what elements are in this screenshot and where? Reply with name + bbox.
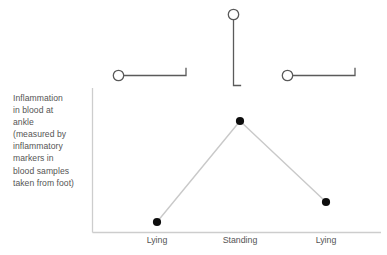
inflammation-posture-figure: Inflammation in blood at ankle (measured… — [0, 0, 387, 255]
data-point-standing — [236, 117, 244, 125]
data-line — [157, 121, 326, 222]
stick-figure-lying-left-icon — [113, 69, 186, 81]
x-axis-tick-label-standing: Standing — [223, 235, 258, 246]
data-point-lying-right — [322, 198, 330, 206]
x-axis-tick-label-lying-right: Lying — [316, 235, 337, 246]
stick-figure-standing-icon — [228, 9, 240, 85]
stick-figure-lying-right-icon — [282, 69, 355, 81]
y-axis-label: Inflammation in blood at ankle (measured… — [13, 92, 89, 189]
data-point-lying-left — [153, 218, 161, 226]
x-axis-tick-label-lying-left: Lying — [147, 235, 168, 246]
